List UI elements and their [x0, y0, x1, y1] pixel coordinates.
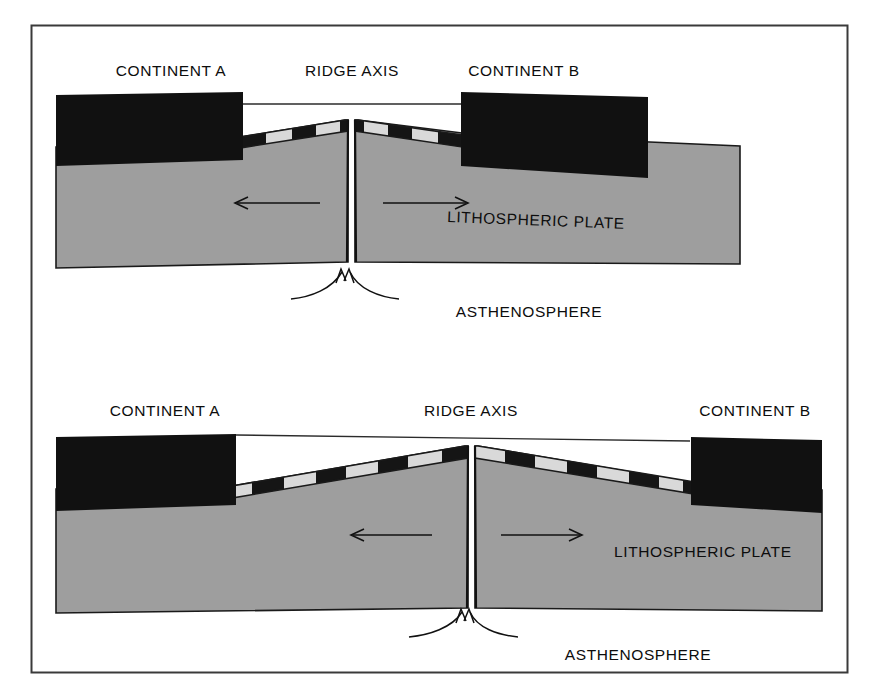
continent-a-block-upper — [56, 92, 243, 166]
label-ridge-axis-upper: RIDGE AXIS — [305, 62, 399, 79]
label-asthenosphere-lower: ASTHENOSPHERE — [565, 646, 711, 663]
label-lithospheric-plate-lower: LITHOSPHERIC PLATE — [614, 543, 792, 560]
continent-a-block-lower — [56, 434, 236, 511]
figure-root: CONTINENT A RIDGE AXIS CONTINENT B LITHO… — [0, 0, 875, 690]
continent-b-block-lower — [691, 437, 822, 513]
label-continent-b-lower: CONTINENT B — [699, 402, 810, 419]
label-continent-b-upper: CONTINENT B — [468, 62, 579, 79]
label-continent-a-lower: CONTINENT A — [110, 402, 221, 419]
label-asthenosphere-upper: ASTHENOSPHERE — [456, 303, 602, 320]
label-continent-a-upper: CONTINENT A — [116, 62, 227, 79]
label-ridge-axis-lower: RIDGE AXIS — [424, 402, 518, 419]
continent-b-block-upper — [461, 92, 648, 178]
seafloor-spreading-diagram: CONTINENT A RIDGE AXIS CONTINENT B LITHO… — [0, 0, 875, 690]
